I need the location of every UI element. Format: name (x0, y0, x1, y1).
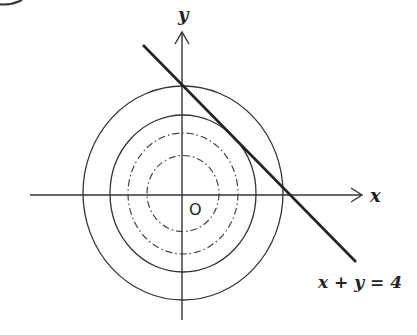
line-label: x + y = 4 (317, 272, 402, 292)
y-axis-label: y (177, 4, 190, 25)
x-axis-label: x (369, 185, 381, 206)
dashed-circle-small (147, 156, 219, 232)
badge-arc (0, 0, 22, 5)
y-axis (175, 32, 189, 320)
diagram-canvas: y x O x + y = 4 (0, 0, 417, 335)
outer-circle (83, 86, 283, 300)
line-x-plus-y-eq-4 (143, 45, 356, 262)
dashed-circle-large (128, 133, 238, 254)
origin-label: O (189, 200, 202, 219)
